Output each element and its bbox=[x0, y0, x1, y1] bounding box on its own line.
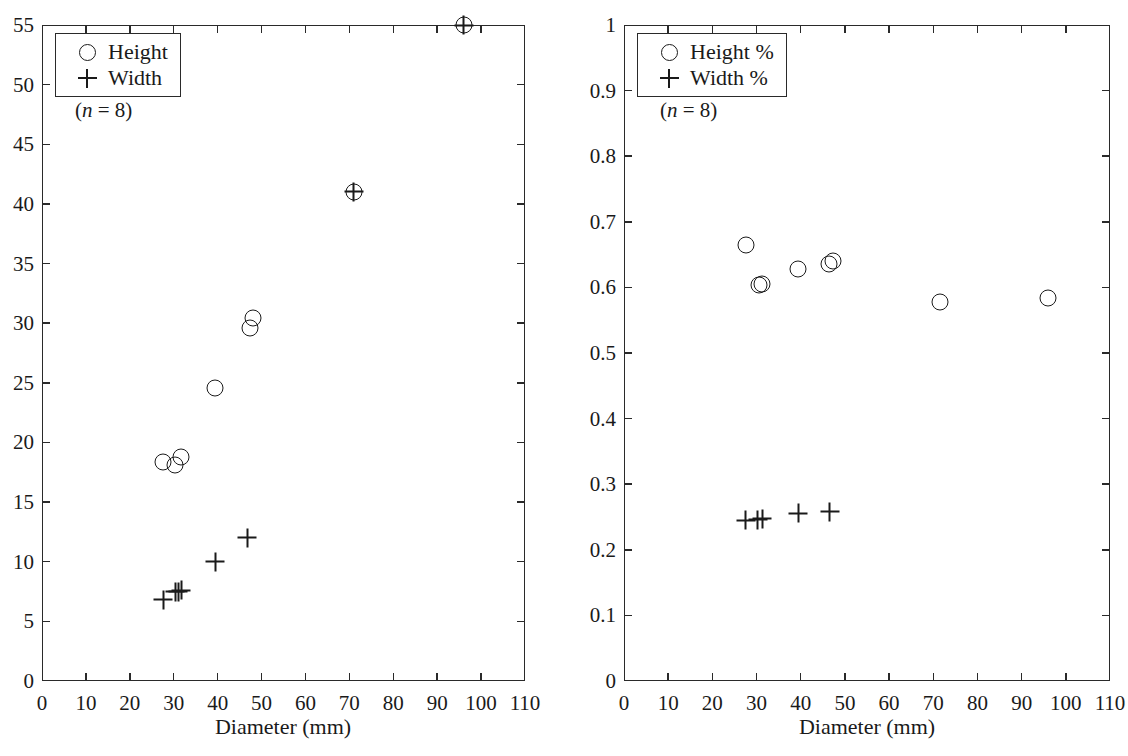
y-tick-right bbox=[517, 84, 525, 86]
y-tick-label: 0.6 bbox=[558, 277, 616, 298]
plus-marker bbox=[238, 528, 257, 547]
y-tick-label: 35 bbox=[0, 253, 34, 274]
x-tick-label: 70 bbox=[923, 693, 944, 714]
x-tick-label: 20 bbox=[702, 693, 723, 714]
x-tick-label: 80 bbox=[383, 693, 404, 714]
circle-marker-icon bbox=[66, 41, 108, 63]
y-tick-label: 40 bbox=[0, 193, 34, 214]
legend-entry-height: Height bbox=[66, 39, 168, 65]
x-tick-top bbox=[480, 25, 482, 33]
y-tick-right bbox=[1102, 418, 1110, 420]
y-tick-label: 0.4 bbox=[558, 408, 616, 429]
y-tick-label: 0.3 bbox=[558, 474, 616, 495]
y-tick-right bbox=[517, 442, 525, 444]
plus-marker bbox=[753, 509, 772, 528]
y-tick bbox=[42, 442, 50, 444]
x-axis-title-left: Diameter (mm) bbox=[215, 714, 351, 740]
x-tick bbox=[349, 673, 351, 681]
y-tick-label: 30 bbox=[0, 313, 34, 334]
y-tick bbox=[42, 263, 50, 265]
x-tick-label: 110 bbox=[1095, 693, 1126, 714]
x-tick-label: 80 bbox=[967, 693, 988, 714]
circle-marker bbox=[790, 261, 807, 278]
y-tick-right bbox=[1102, 549, 1110, 551]
panel-left: 0510152025303540455055010203040506070809… bbox=[0, 0, 564, 756]
legend-label-height-pct: Height % bbox=[690, 41, 774, 63]
x-tick-top bbox=[261, 25, 263, 33]
x-tick bbox=[173, 673, 175, 681]
x-tick-label: 70 bbox=[339, 693, 360, 714]
x-tick bbox=[436, 673, 438, 681]
y-tick-right bbox=[517, 561, 525, 563]
y-tick bbox=[42, 501, 50, 503]
y-tick-label: 55 bbox=[0, 15, 34, 36]
legend-label-width: Width bbox=[108, 67, 162, 89]
y-tick-label: 0.2 bbox=[558, 539, 616, 560]
x-tick-top bbox=[756, 25, 758, 33]
plus-marker bbox=[820, 502, 839, 521]
y-tick-label: 5 bbox=[0, 611, 34, 632]
y-tick-right bbox=[1102, 221, 1110, 223]
x-tick bbox=[888, 673, 890, 681]
legend-label-height: Height bbox=[108, 41, 168, 63]
y-tick bbox=[624, 418, 632, 420]
y-tick-right bbox=[517, 144, 525, 146]
x-tick-top bbox=[393, 25, 395, 33]
y-tick-right bbox=[517, 203, 525, 205]
x-tick-top bbox=[977, 25, 979, 33]
x-tick-top bbox=[712, 25, 714, 33]
x-tick bbox=[756, 673, 758, 681]
x-tick-top bbox=[667, 25, 669, 33]
x-tick bbox=[977, 673, 979, 681]
y-tick-label: 10 bbox=[0, 551, 34, 572]
y-tick bbox=[624, 549, 632, 551]
y-tick bbox=[624, 155, 632, 157]
x-tick-label: 90 bbox=[1011, 693, 1032, 714]
sample-size-note-right: (n = 8) bbox=[660, 98, 717, 123]
plus-marker-icon bbox=[648, 67, 690, 89]
plus-marker bbox=[344, 182, 363, 201]
plot-area-left bbox=[42, 25, 525, 681]
x-tick-top bbox=[173, 25, 175, 33]
x-tick-top bbox=[217, 25, 219, 33]
y-tick-label: 1 bbox=[558, 15, 616, 36]
x-tick-label: 30 bbox=[163, 693, 184, 714]
y-tick bbox=[624, 90, 632, 92]
legend-right: Height % Width % bbox=[637, 33, 787, 97]
y-tick-right bbox=[517, 263, 525, 265]
y-tick bbox=[42, 322, 50, 324]
circle-marker bbox=[1040, 289, 1057, 306]
circle-marker bbox=[737, 237, 754, 254]
sample-size-note-left: (n = 8) bbox=[75, 98, 132, 123]
plus-marker-icon bbox=[66, 67, 108, 89]
x-tick bbox=[933, 673, 935, 681]
y-tick bbox=[42, 144, 50, 146]
y-tick-right bbox=[517, 621, 525, 623]
x-tick-label: 40 bbox=[207, 693, 228, 714]
x-tick-label: 20 bbox=[119, 693, 140, 714]
x-tick-top bbox=[933, 25, 935, 33]
x-tick-top bbox=[85, 25, 87, 33]
x-tick-label: 0 bbox=[619, 693, 630, 714]
y-tick-label: 20 bbox=[0, 432, 34, 453]
y-tick-label: 50 bbox=[0, 74, 34, 95]
circle-marker bbox=[824, 252, 841, 269]
x-tick-top bbox=[800, 25, 802, 33]
y-tick-right bbox=[1102, 287, 1110, 289]
x-axis-title-right: Diameter (mm) bbox=[799, 714, 935, 740]
x-tick bbox=[217, 673, 219, 681]
x-tick-top bbox=[349, 25, 351, 33]
scatter-plot-figure: 0510152025303540455055010203040506070809… bbox=[0, 0, 1128, 756]
circle-marker bbox=[754, 276, 771, 293]
x-tick bbox=[844, 673, 846, 681]
y-tick-label: 15 bbox=[0, 492, 34, 513]
x-tick-label: 40 bbox=[790, 693, 811, 714]
y-tick bbox=[624, 221, 632, 223]
circle-marker bbox=[207, 379, 224, 396]
y-tick-right bbox=[1102, 155, 1110, 157]
x-tick-top bbox=[1065, 25, 1067, 33]
y-tick bbox=[624, 483, 632, 485]
circle-marker-icon bbox=[648, 41, 690, 63]
legend-left: Height Width bbox=[55, 33, 181, 97]
y-tick-label: 45 bbox=[0, 134, 34, 155]
